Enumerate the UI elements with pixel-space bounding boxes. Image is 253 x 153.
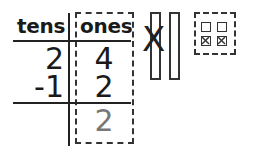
cross-icon (218, 37, 226, 45)
unit-cube (217, 22, 227, 32)
unit-cube (201, 22, 211, 32)
answer-ones-digit: 2 (82, 106, 126, 136)
cross-out-icon: X (142, 22, 165, 56)
column-divider-line (68, 13, 70, 146)
unit-cube-crossed (217, 36, 227, 46)
row2-tens-digit: -1 (20, 72, 64, 102)
tens-rod (169, 12, 180, 80)
row2-ones-digit: 2 (82, 72, 126, 102)
unit-cube-crossed (201, 36, 211, 46)
cross-icon (202, 37, 210, 45)
ones-cubes-dashed-box (194, 12, 236, 55)
tens-header: tens (17, 16, 65, 36)
ones-header: ones (80, 16, 132, 36)
